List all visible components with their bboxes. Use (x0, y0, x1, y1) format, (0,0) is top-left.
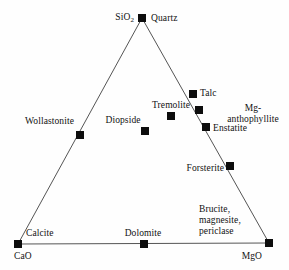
vertex-label-quartz: Quartz (151, 13, 177, 24)
phase-label-talc: Talc (200, 88, 217, 99)
marker-mg-anthophyllite[interactable] (195, 106, 203, 114)
marker-quartz[interactable] (138, 14, 146, 22)
sio2-formula-main: SiO (115, 12, 130, 22)
phase-label-wollastonite: Wollastonite (25, 116, 74, 127)
marker-dolomite[interactable] (140, 240, 148, 248)
phase-label-dolomite: Dolomite (125, 228, 162, 239)
marker-enstatite[interactable] (202, 123, 210, 131)
phase-label-tremolite: Tremolite (152, 100, 190, 111)
vertex-label-mgo: MgO (242, 251, 262, 262)
vertex-label-sio2: SiO2 (115, 12, 134, 24)
marker-periclase[interactable] (265, 239, 273, 247)
brucite-line-2: magnesite, (199, 215, 257, 226)
mg-anthophyllite-line-2: anthophyllite (222, 114, 284, 125)
phase-label-diopside: Diopside (105, 115, 140, 126)
marker-diopside[interactable] (141, 127, 149, 135)
sio2-formula-sub: 2 (130, 16, 134, 24)
marker-calcite[interactable] (14, 240, 22, 248)
marker-forsterite[interactable] (226, 162, 234, 170)
vertex-label-cao: CaO (14, 251, 32, 262)
brucite-line-3: periclase (199, 226, 257, 237)
marker-tremolite[interactable] (167, 112, 175, 120)
phase-label-forsterite: Forsterite (187, 163, 224, 174)
mg-anthophyllite-line-1: Mg- (222, 103, 284, 114)
marker-wollastonite[interactable] (76, 131, 84, 139)
vertex-label-brucite-group: Brucite, magnesite, periclase (199, 204, 257, 237)
brucite-line-1: Brucite, (199, 204, 257, 215)
marker-talc[interactable] (189, 90, 197, 98)
ternary-diagram: SiO2 Quartz Calcite CaO MgO Brucite, mag… (0, 0, 289, 270)
vertex-label-calcite: Calcite (26, 228, 54, 239)
phase-label-mg-anthophyllite: Mg- anthophyllite (222, 103, 284, 125)
